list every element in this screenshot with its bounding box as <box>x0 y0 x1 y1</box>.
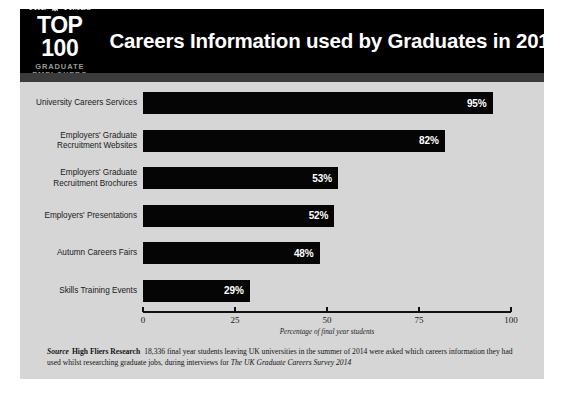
bar: 82% <box>143 130 445 152</box>
chart-row: Skills Training Events29% <box>20 280 544 302</box>
category-label: Skills Training Events <box>20 285 137 296</box>
chart-row: University Careers Services95% <box>20 92 544 114</box>
bar: 53% <box>143 167 338 189</box>
source-survey-name: The UK Graduate Careers Survey 2014 <box>231 358 352 367</box>
source-label: Source <box>47 347 69 356</box>
x-axis-tick <box>142 307 143 312</box>
x-axis-tick-label: 75 <box>415 315 424 325</box>
header-accent-strip <box>20 73 544 82</box>
bar-value-label: 82% <box>419 135 445 146</box>
x-axis-tick-label: 0 <box>141 315 146 325</box>
chart-row: Employers' Graduate Recruitment Websites… <box>20 130 544 152</box>
category-label: Employers' Graduate Recruitment Brochure… <box>20 168 137 189</box>
x-axis: 0255075100 <box>143 311 511 312</box>
category-label: Autumn Careers Fairs <box>20 248 137 259</box>
bar-value-label: 95% <box>467 98 493 109</box>
chart-body: University Careers Services95%Employers'… <box>20 82 544 379</box>
x-axis-tick-label: 50 <box>323 315 332 325</box>
times-top100-logo: THE TIMES TOP 100 GRADUATE EMPLOYERS <box>20 9 92 78</box>
x-axis-tick <box>326 307 327 312</box>
bar: 52% <box>143 205 334 227</box>
bar-chart-plot: University Careers Services95%Employers'… <box>20 92 544 332</box>
x-axis-tick-label: 100 <box>504 315 518 325</box>
top100-label: TOP 100 <box>28 14 92 60</box>
chart-row: Autumn Careers Fairs48% <box>20 242 544 264</box>
header-bar: THE TIMES TOP 100 GRADUATE EMPLOYERS Car… <box>20 9 544 73</box>
category-label: Employers' Presentations <box>20 210 137 221</box>
chart-row: Employers' Graduate Recruitment Brochure… <box>20 167 544 189</box>
chart-row: Employers' Presentations52% <box>20 205 544 227</box>
bar-value-label: 52% <box>309 210 335 221</box>
screenshot-root: THE TIMES TOP 100 GRADUATE EMPLOYERS Car… <box>0 0 564 393</box>
x-axis-tick-label: 25 <box>231 315 240 325</box>
x-axis-tick <box>418 307 419 312</box>
x-axis-tick <box>234 307 235 312</box>
bar: 29% <box>143 280 250 302</box>
category-label: Employers' Graduate Recruitment Websites <box>20 130 137 151</box>
bar-value-label: 53% <box>312 173 338 184</box>
x-axis-caption: Percentage of final year students <box>143 328 511 336</box>
bar-value-label: 48% <box>294 248 320 259</box>
source-note: SourceHigh Fliers Research18,336 final y… <box>47 346 525 368</box>
bar: 48% <box>143 242 320 264</box>
infographic-panel: THE TIMES TOP 100 GRADUATE EMPLOYERS Car… <box>20 9 544 379</box>
bar-value-label: 29% <box>224 285 250 296</box>
times-crest-icon <box>49 9 61 12</box>
x-axis-tick <box>510 307 511 312</box>
source-organisation: High Fliers Research <box>72 347 140 356</box>
category-label: University Careers Services <box>20 98 137 109</box>
bar: 95% <box>143 92 493 114</box>
page-title: Careers Information used by Graduates in… <box>92 29 545 53</box>
